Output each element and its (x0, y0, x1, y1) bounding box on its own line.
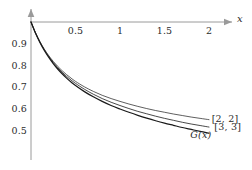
curves-group (31, 22, 209, 133)
curve-3 (31, 22, 209, 133)
y-tick-label: 0.8 (12, 61, 27, 71)
x-axis-arrowhead (224, 19, 232, 26)
curve-2 (31, 22, 209, 127)
curve-1 (31, 22, 209, 120)
y-axis-arrowhead (28, 9, 35, 17)
x-tick-label: 0.5 (68, 26, 83, 36)
y-tick-label: 0.6 (12, 104, 27, 114)
x-tick-label: 2 (206, 26, 212, 36)
x-tick-label: 1 (117, 26, 123, 36)
y-tick-label: 0.9 (12, 39, 27, 49)
curve-label-3: G(x) (190, 130, 211, 140)
curve-label-2: [3, 3] (214, 122, 241, 132)
x-axis-label: x (237, 14, 243, 24)
y-tick-label: 0.7 (12, 83, 27, 93)
figure-container: 0.511.52 0.90.80.70.60.5 [2, 2][3, 3]G(x… (0, 0, 252, 170)
x-tick-label: 1.5 (157, 26, 172, 36)
y-tick-label: 0.5 (12, 126, 27, 136)
plot-area (0, 0, 252, 170)
